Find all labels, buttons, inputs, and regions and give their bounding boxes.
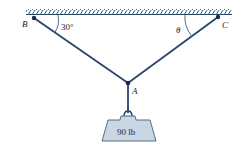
ceiling — [26, 9, 232, 15]
joint-a — [126, 81, 131, 86]
label-c: C — [222, 20, 229, 30]
angle-arc-b — [55, 15, 59, 32]
angle-arc-c — [185, 15, 191, 35]
weight-block: 90 lb — [102, 111, 156, 141]
anchor-c — [216, 15, 220, 19]
angle-c-label: θ — [176, 25, 181, 35]
weight-label: 90 lb — [117, 127, 136, 137]
label-b: B — [22, 19, 28, 29]
angle-b-label: 30° — [61, 22, 74, 32]
cable-ab — [34, 18, 128, 83]
cable-ac — [128, 17, 218, 83]
statics-diagram: B C A 30° θ 90 lb — [0, 0, 240, 156]
label-a: A — [131, 86, 138, 96]
anchor-b — [32, 16, 36, 20]
